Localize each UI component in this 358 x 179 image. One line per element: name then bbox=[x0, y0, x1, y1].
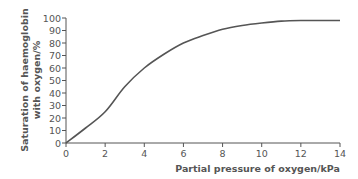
x-tick-label: 8 bbox=[220, 148, 226, 159]
x-tick-label: 4 bbox=[141, 148, 147, 159]
x-tick-label: 0 bbox=[63, 148, 69, 159]
y-tick-label: 30 bbox=[49, 100, 61, 111]
y-tick-label: 10 bbox=[49, 125, 61, 136]
y-tick-label: 60 bbox=[49, 63, 61, 74]
y-axis-title-line2: with oxygen/% bbox=[31, 40, 42, 119]
y-tick-label: 100 bbox=[43, 13, 61, 24]
x-axis-title: Partial pressure of oxygen/kPa bbox=[175, 163, 340, 174]
x-tick-label: 6 bbox=[180, 148, 186, 159]
x-tick-label: 2 bbox=[102, 148, 108, 159]
y-tick-label: 40 bbox=[49, 88, 61, 99]
x-tick-label: 12 bbox=[295, 148, 307, 159]
y-tick-label: 90 bbox=[49, 25, 61, 36]
y-tick-label: 20 bbox=[49, 113, 61, 124]
x-axis: 02468101214 bbox=[63, 143, 346, 159]
x-tick-label: 10 bbox=[256, 148, 268, 159]
y-tick-label: 0 bbox=[55, 138, 61, 149]
y-axis: 0102030405060708090100 bbox=[43, 13, 66, 149]
y-axis-title-line1: Saturation of haemoglobin bbox=[19, 8, 30, 152]
y-tick-label: 70 bbox=[49, 50, 61, 61]
y-tick-label: 80 bbox=[49, 38, 61, 49]
y-tick-label: 50 bbox=[49, 75, 61, 86]
oxygen-dissociation-chart: 0102030405060708090100 02468101214 Parti… bbox=[0, 0, 358, 179]
x-tick-label: 14 bbox=[334, 148, 346, 159]
saturation-curve bbox=[66, 20, 340, 143]
